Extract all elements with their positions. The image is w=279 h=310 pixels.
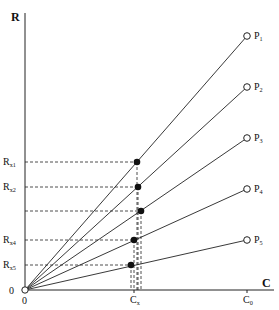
- y-axis-label: R: [11, 10, 20, 24]
- projection-lines: [25, 162, 141, 290]
- intersection-dot-5: [128, 262, 135, 269]
- label-p1: P1: [254, 30, 263, 42]
- label-rx5: Rx5: [3, 259, 16, 271]
- axes: R C 0 0: [9, 10, 274, 306]
- endpoint-p5: [244, 237, 251, 244]
- label-p4: P4: [254, 183, 263, 195]
- label-p2: P2: [254, 81, 263, 93]
- ray-p5: [25, 240, 247, 290]
- endpoint-p4: [244, 186, 251, 193]
- endpoint-p2: [244, 84, 251, 91]
- endpoint-p1: [244, 33, 251, 40]
- intersection-dot-1: [134, 159, 141, 166]
- intersection-dot-3: [138, 208, 145, 215]
- label-rx1: Rx1: [3, 156, 16, 168]
- origin-point: [22, 287, 28, 293]
- origin-y-label: 0: [9, 285, 14, 296]
- r-vs-c-diagram: R C 0 0 P1P2P3P4P5 CxC0 Rx1Rx2Rx4Rx5: [0, 0, 279, 310]
- origin-x-label: 0: [22, 295, 27, 306]
- x-tick-label-C0: C0: [243, 294, 253, 306]
- label-p5: P5: [254, 234, 263, 246]
- rays: P1P2P3P4P5: [25, 30, 263, 290]
- x-axis-label: C: [262, 276, 271, 290]
- x-ticks: CxC0: [130, 290, 253, 306]
- label-p3: P3: [254, 132, 263, 144]
- x-tick-label-Cx: Cx: [130, 294, 141, 306]
- label-rx4: Rx4: [3, 234, 16, 246]
- endpoint-p3: [244, 135, 251, 142]
- intersection-dot-4: [131, 237, 138, 244]
- intersection-dot-2: [135, 184, 142, 191]
- r-labels: Rx1Rx2Rx4Rx5: [3, 156, 16, 271]
- label-rx2: Rx2: [3, 181, 16, 193]
